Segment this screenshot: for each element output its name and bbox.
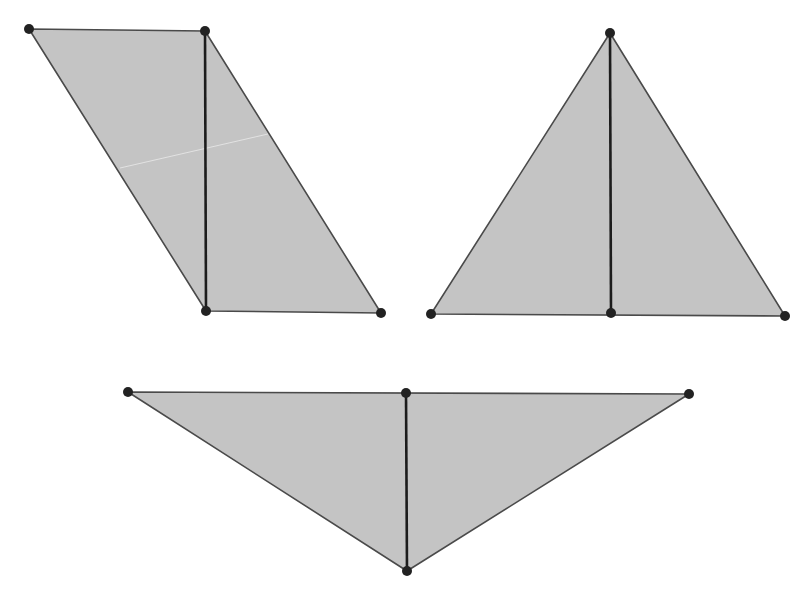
vertex-point <box>402 566 412 576</box>
obtuse-triangle-shape <box>128 392 689 571</box>
vertex-point <box>684 389 694 399</box>
height-line <box>205 31 206 311</box>
vertex-point <box>24 24 34 34</box>
vertex-point <box>200 26 210 36</box>
obtuse-triangle-figure <box>123 387 694 576</box>
vertex-point <box>426 309 436 319</box>
vertex-point <box>605 28 615 38</box>
vertex-point <box>123 387 133 397</box>
geometry-figures <box>0 0 812 603</box>
vertex-point <box>201 306 211 316</box>
height-line <box>610 33 611 313</box>
vertex-point <box>401 388 411 398</box>
height-line <box>406 393 407 571</box>
vertex-point <box>376 308 386 318</box>
isosceles-triangle-figure <box>426 28 790 321</box>
isosceles-triangle-shape <box>431 33 785 316</box>
vertex-point <box>780 311 790 321</box>
parallelogram-figure <box>24 24 386 318</box>
vertex-point <box>606 308 616 318</box>
